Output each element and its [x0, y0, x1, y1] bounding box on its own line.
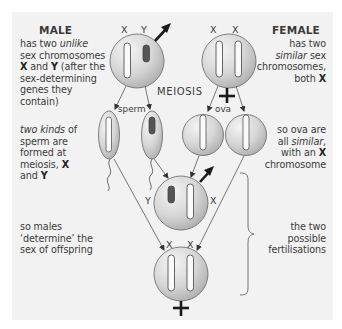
- arrow-sperm-y-to-male-offspring: [154, 159, 168, 178]
- x-chromosome: [216, 41, 223, 77]
- x-chromosome: [187, 184, 194, 219]
- arrow-male-to-sperm-y: [145, 86, 150, 109]
- male-heading: MALE: [39, 24, 72, 36]
- chromosome-label: Y: [145, 195, 151, 206]
- chromosome-label: X: [232, 24, 239, 35]
- female-symbol-cross-icon: [219, 88, 235, 103]
- chromosome-label: X: [166, 239, 173, 250]
- ova-label: ova: [215, 104, 231, 114]
- fertilisations-description: the two possible fertilisations: [256, 221, 326, 256]
- x-chromosome: [235, 41, 242, 77]
- ova-description: so ova are all similar, with an X chromo…: [256, 124, 326, 170]
- x-chromosome: [243, 115, 249, 150]
- chromosome-label: Y: [141, 24, 147, 35]
- x-chromosome: [200, 115, 206, 150]
- y-chromosome: [143, 45, 150, 62]
- meiosis-label: MEIOSIS: [157, 86, 203, 97]
- sperm-description: two kinds of sperm are formed at meiosis…: [20, 124, 100, 182]
- female-symbol-cross-icon: [173, 301, 189, 316]
- males-determine-description: so males ‘determine’ the sex of offsprin…: [20, 221, 120, 256]
- arrow-female-to-ovum-2: [236, 86, 244, 111]
- arrow-ovum-1-to-male-offspring: [191, 156, 199, 177]
- ovum-1: [183, 115, 224, 156]
- female-heading: FEMALE: [272, 24, 320, 36]
- chromosome-label: X: [121, 24, 128, 35]
- y-chromosome: [149, 117, 155, 134]
- chromosome-label: X: [187, 239, 194, 250]
- female-description: has two similar sex chromosomes, both X: [248, 38, 326, 84]
- x-chromosome: [106, 117, 112, 152]
- fertilisations-brace: [240, 173, 254, 295]
- chromosome-label: X: [210, 195, 217, 206]
- y-chromosome: [168, 186, 175, 203]
- male-offspring-cell: [154, 166, 214, 230]
- male-description: has two unlike sex chromosomes X and Y (…: [20, 38, 130, 108]
- x-chromosome: [187, 255, 194, 291]
- sperm-x: [99, 111, 120, 191]
- female-offspring-cell: [154, 247, 208, 316]
- chromosome-label: X: [210, 24, 217, 35]
- male-symbol-arrow-icon: [155, 23, 171, 41]
- x-chromosome: [168, 255, 175, 291]
- sperm-y: [142, 111, 163, 190]
- male-symbol-arrow-icon: [200, 166, 214, 182]
